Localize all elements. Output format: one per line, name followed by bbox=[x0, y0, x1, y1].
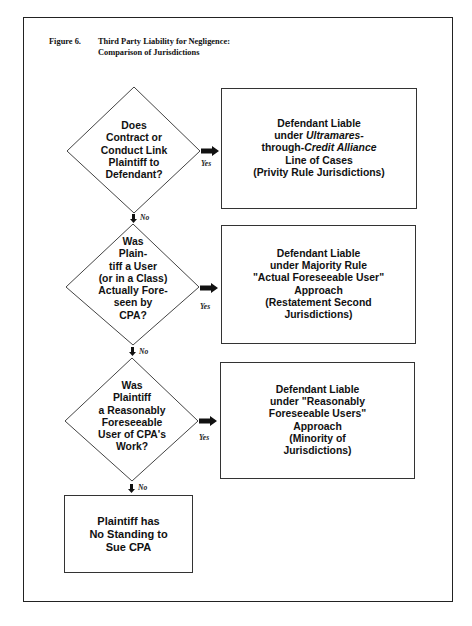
outcome-1-line: through-Credit Alliance bbox=[253, 142, 385, 154]
caption-line-1: Figure 6.Third Party Liability for Negli… bbox=[49, 36, 230, 47]
no-label-2: No bbox=[139, 347, 148, 356]
decision-2-line: Plain- bbox=[66, 248, 200, 260]
decision-3-line: Was bbox=[65, 380, 199, 392]
final-outcome-line: No Standing to bbox=[89, 528, 167, 541]
outcome-3-line: Foreseeable Users" bbox=[269, 408, 366, 420]
outcome-1-text-part: under bbox=[274, 130, 306, 141]
decision-2-line: Was bbox=[66, 236, 200, 248]
decision-1-line: Defendant? bbox=[67, 169, 201, 181]
decision-1-line: Contract or bbox=[67, 132, 201, 144]
decision-3-line: Work? bbox=[65, 441, 199, 453]
yes-label-1: Yes bbox=[201, 159, 211, 168]
outcome-3-line: under "Reasonably bbox=[269, 396, 366, 408]
decision-1-line: Plaintiff to bbox=[67, 157, 201, 169]
no-label-3: No bbox=[138, 483, 147, 492]
outcome-2-line: (Restatement Second bbox=[253, 297, 384, 309]
decision-3-line: a Reasonably bbox=[65, 405, 199, 417]
outcome-1-line: (Privity Rule Jurisdictions) bbox=[253, 167, 385, 179]
outcome-1-line: Line of Cases bbox=[253, 155, 385, 167]
outcome-2-line: "Actual Foreseeable User" bbox=[253, 272, 384, 284]
no-arrow-1 bbox=[130, 214, 137, 223]
final-outcome-line: Plaintiff has bbox=[89, 515, 167, 528]
final-outcome-box: Plaintiff has No Standing to Sue CPA bbox=[64, 495, 193, 573]
outcome-1-line: Defendant Liable bbox=[253, 118, 385, 130]
outcome-3-line: Jurisdictions) bbox=[269, 445, 366, 457]
decision-2-line: tiff a User bbox=[66, 261, 200, 273]
yes-label-3: Yes bbox=[199, 433, 209, 442]
decision-2-text: Was Plain- tiff a User (or in a Class) A… bbox=[66, 236, 200, 322]
decision-2-line: seen by bbox=[66, 297, 200, 309]
outcome-1-text-part: - bbox=[360, 130, 363, 141]
outcome-box-1: Defendant Liable under Ultramares- throu… bbox=[221, 88, 417, 209]
outcome-1-text: Defendant Liable under Ultramares- throu… bbox=[253, 118, 385, 179]
decision-1-line: Does bbox=[67, 120, 201, 132]
decision-2-line: (or in a Class) bbox=[66, 273, 200, 285]
final-outcome-text: Plaintiff has No Standing to Sue CPA bbox=[89, 515, 167, 554]
outcome-3-line: Defendant Liable bbox=[269, 384, 366, 396]
final-outcome-line: Sue CPA bbox=[89, 541, 167, 554]
figure-caption: Figure 6.Third Party Liability for Negli… bbox=[49, 36, 230, 58]
outcome-2-line: Defendant Liable bbox=[253, 248, 384, 260]
decision-3-line: Plaintiff bbox=[65, 392, 199, 404]
yes-arrow-2 bbox=[200, 283, 218, 293]
figure-title-line-2: Comparison of Jurisdictions bbox=[49, 47, 230, 58]
outcome-1-text-part: through- bbox=[261, 142, 304, 153]
no-arrow-3 bbox=[128, 484, 135, 493]
decision-2-line: CPA? bbox=[66, 310, 200, 322]
decision-1-line: Conduct Link bbox=[67, 145, 201, 157]
no-label-1: No bbox=[140, 213, 149, 222]
outcome-2-line: Jurisdictions) bbox=[253, 309, 384, 321]
cropped-header-fragment bbox=[300, 0, 460, 4]
figure-title-line-1: Third Party Liability for Negligence: bbox=[98, 37, 230, 46]
outcome-1-line: under Ultramares- bbox=[253, 130, 385, 142]
outcome-3-line: (Minority of bbox=[269, 433, 366, 445]
case-name-ultramares: Ultramares bbox=[306, 130, 360, 141]
no-arrow-2 bbox=[129, 347, 136, 356]
case-name-credit-alliance: Credit Alliance bbox=[304, 142, 376, 153]
figure-number: Figure 6. bbox=[49, 36, 98, 47]
outcome-2-text: Defendant Liable under Majority Rule "Ac… bbox=[253, 248, 384, 322]
decision-2-line: Actually Fore- bbox=[66, 285, 200, 297]
yes-arrow-1 bbox=[201, 146, 219, 156]
outcome-box-2: Defendant Liable under Majority Rule "Ac… bbox=[221, 225, 416, 344]
outcome-3-line: Approach bbox=[269, 421, 366, 433]
decision-3-line: User of CPA's bbox=[65, 429, 199, 441]
yes-label-2: Yes bbox=[200, 302, 210, 311]
decision-1-text: Does Contract or Conduct Link Plaintiff … bbox=[67, 120, 201, 181]
outcome-2-line: Approach bbox=[253, 285, 384, 297]
decision-3-line: Foreseeable bbox=[65, 417, 199, 429]
outcome-2-line: under Majority Rule bbox=[253, 260, 384, 272]
outcome-3-text: Defendant Liable under "Reasonably Fores… bbox=[269, 384, 366, 458]
outcome-box-3: Defendant Liable under "Reasonably Fores… bbox=[220, 362, 415, 479]
decision-3-text: Was Plaintiff a Reasonably Foreseeable U… bbox=[65, 380, 199, 454]
yes-arrow-3 bbox=[199, 416, 217, 426]
